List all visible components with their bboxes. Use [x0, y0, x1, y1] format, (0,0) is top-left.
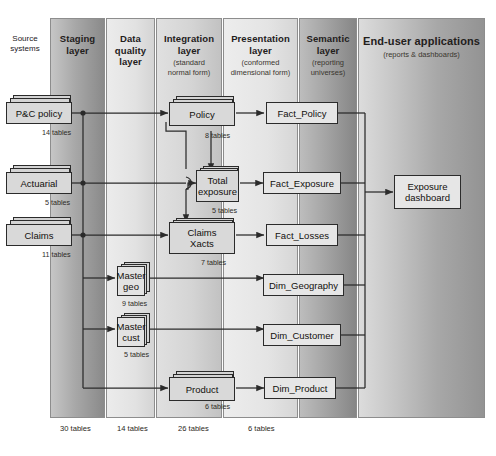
caption-actuarial-tables: 5 tables: [45, 198, 70, 207]
connector-lines: [0, 0, 496, 456]
footer-count-integration: 26 tables: [178, 424, 209, 433]
caption-master-geo-tables: 9 tables: [122, 299, 147, 308]
dq-node-master-geo[interactable]: Master geo: [117, 266, 145, 296]
integration-node-claims-xacts-line1: Claims: [187, 227, 216, 238]
caption-claims-tables: 11 tables: [42, 250, 71, 259]
footer-count-staging: 30 tables: [60, 424, 91, 433]
integration-node-total-exposure-line2: exposure: [198, 186, 237, 197]
end-user-node-exposure-dashboard[interactable]: Exposure dashboard: [394, 175, 461, 209]
dq-node-master-cust[interactable]: Master cust: [117, 317, 145, 347]
presentation-node-fact-exposure[interactable]: Fact_Exposure: [263, 172, 341, 194]
architecture-diagram: Source systems Staging layer Data qualit…: [0, 0, 496, 456]
presentation-node-dim-customer[interactable]: Dim_Customer: [263, 324, 341, 346]
caption-policy-tables: 8 tables: [205, 131, 230, 140]
integration-node-claims-xacts[interactable]: Claims Xacts: [169, 222, 235, 254]
presentation-node-dim-product[interactable]: Dim_Product: [264, 377, 336, 399]
line-policy-left-down: [166, 122, 186, 169]
end-user-node-exposure-dashboard-line1: Exposure: [407, 181, 447, 192]
footer-count-data-quality: 14 tables: [117, 424, 148, 433]
source-node-actuarial[interactable]: Actuarial: [6, 172, 72, 194]
caption-product-tables: 6 tables: [205, 402, 230, 411]
integration-node-total-exposure[interactable]: Total exposure: [196, 170, 239, 202]
integration-node-product[interactable]: Product: [169, 377, 235, 401]
dq-node-master-cust-line1: Master: [116, 321, 145, 332]
caption-pc-policy-tables: 14 tables: [42, 128, 71, 137]
presentation-node-dim-geography[interactable]: Dim_Geography: [263, 274, 344, 296]
caption-total-exposure-tables: 5 tables: [212, 206, 237, 215]
integration-node-policy[interactable]: Policy: [169, 102, 235, 126]
dq-node-master-cust-line2: cust: [122, 332, 139, 343]
end-user-node-exposure-dashboard-line2: dashboard: [405, 192, 450, 203]
source-node-claims[interactable]: Claims: [6, 224, 72, 246]
caption-claims-xacts-tables: 7 tables: [201, 258, 226, 267]
presentation-node-fact-policy[interactable]: Fact_Policy: [266, 102, 338, 124]
source-node-pc-policy[interactable]: P&C policy: [6, 102, 72, 124]
integration-node-total-exposure-line1: Total: [207, 175, 227, 186]
integration-node-claims-xacts-line2: Xacts: [190, 238, 214, 249]
dq-node-master-geo-line1: Master: [116, 270, 145, 281]
caption-master-cust-tables: 5 tables: [124, 350, 149, 359]
dq-node-master-geo-line2: geo: [123, 281, 139, 292]
footer-count-presentation: 6 tables: [248, 424, 275, 433]
presentation-node-fact-losses[interactable]: Fact_Losses: [266, 224, 338, 246]
